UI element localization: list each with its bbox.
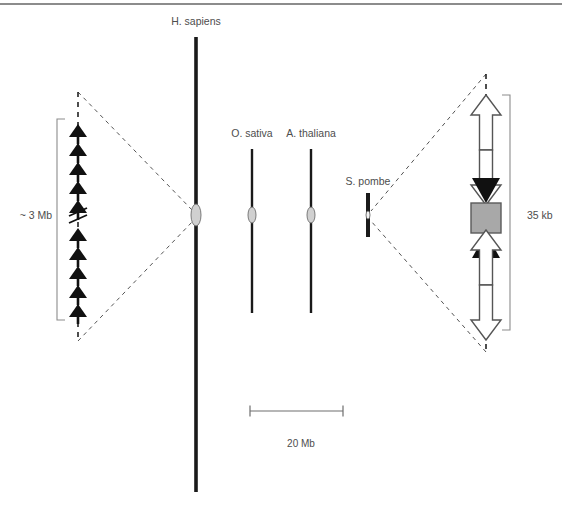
species-label-h-sapiens: H. sapiens [171,15,221,27]
left-measure-label: ~ 3 Mb [20,209,53,221]
figure-canvas: 20 Mb H. sapiensO. sativaA. thalianaS. p… [0,0,562,509]
scale-bar-line [250,406,343,417]
dashed-leader-line [371,221,486,352]
centromere-h-sapiens [191,204,201,226]
left-repeat-arrow-7-head [69,247,87,260]
species-labels: H. sapiensO. sativaA. thalianaS. pombe [171,15,390,187]
species-chromosomes [191,37,370,492]
species-label-o-sativa: O. sativa [231,127,273,139]
centromere-a-thaliana [307,207,315,223]
right-white-arrow-4 [471,285,501,340]
species-label-s-pombe: S. pombe [346,175,391,187]
right-white-arrow-1 [471,95,501,150]
centromere-s-pombe [366,211,370,219]
left-repeat-arrow-4-head [69,181,87,194]
right-central-core-box [471,203,501,233]
centromere-comparison-figure: 20 Mb H. sapiensO. sativaA. thalianaS. p… [0,0,562,509]
left-repeat-arrow-3-head [69,162,87,175]
species-label-a-thaliana: A. thaliana [286,127,336,139]
centromere-o-sativa [248,207,256,223]
left-size-bracket [57,119,65,320]
dashed-leader-line [78,221,193,341]
right-detail-panel [471,74,510,352]
right-measure-label: 35 kb [527,209,553,221]
dashed-leader-lines [78,74,486,352]
right-size-bracket [502,95,510,330]
left-detail-panel [57,92,87,341]
left-repeat-arrow-9-head [69,285,87,298]
left-repeat-arrow-6-head [69,228,87,241]
dashed-leader-line [371,74,486,211]
left-repeat-arrow-2-head [69,143,87,156]
scale-bar-label: 20 Mb [287,438,315,449]
dashed-leader-line [78,92,193,211]
left-repeat-arrow-10-head [69,304,87,317]
scale-bar-group: 20 Mb [250,406,343,450]
left-repeat-arrow-8-head [69,266,87,279]
left-repeat-arrow-1-head [69,124,87,137]
